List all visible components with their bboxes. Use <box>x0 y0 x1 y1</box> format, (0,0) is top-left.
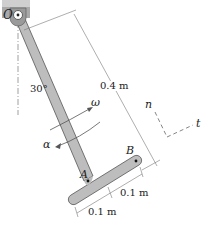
point-b-label: B <box>126 145 134 156</box>
half-bar-right-label: 0.1 m <box>120 188 149 198</box>
alpha-label: α <box>43 139 50 150</box>
rod-oa <box>14 12 93 181</box>
pivot-o-label: O <box>3 9 13 21</box>
half-bar-left-label: 0.1 m <box>88 207 117 217</box>
point-a-label: A <box>80 169 88 180</box>
pendulum-diagram <box>0 0 213 231</box>
length-label: 0.4 m <box>100 81 129 91</box>
omega-label: ω <box>91 97 100 108</box>
point-b-dot <box>135 160 138 163</box>
nt-axes <box>155 112 193 137</box>
tangent-axis-label: t <box>196 118 200 129</box>
angle-label: 30° <box>30 84 48 94</box>
normal-axis-label: n <box>145 99 152 110</box>
